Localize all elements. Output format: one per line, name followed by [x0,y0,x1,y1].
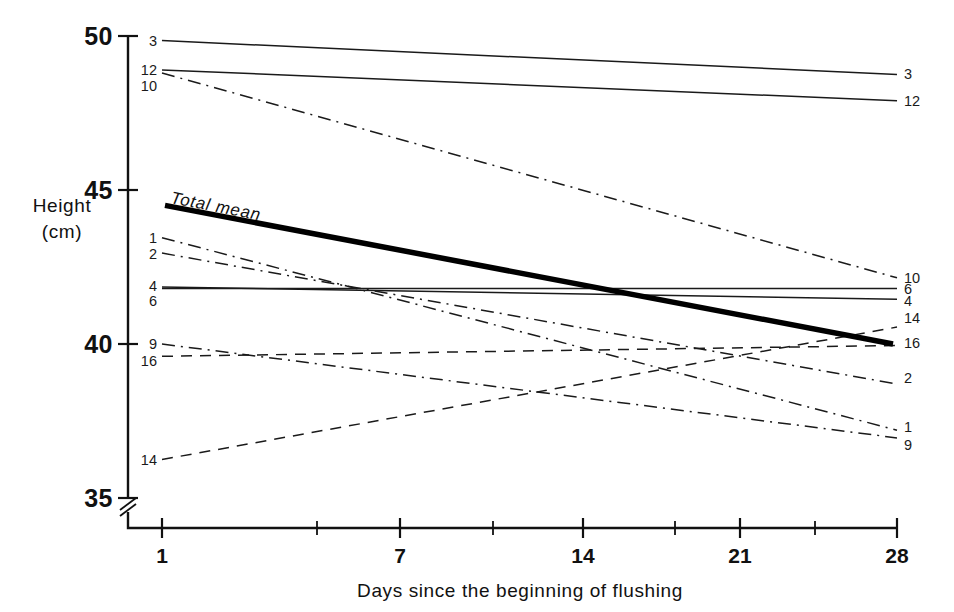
y-axis-lower-stub [128,512,152,528]
series-label-left-1: 1 [149,230,157,246]
series-label-right-9: 9 [904,437,912,453]
x-tick-label-1: 1 [156,544,168,567]
series-label-left-2: 2 [149,246,157,262]
x-tick-label-7: 7 [394,544,406,567]
y-tick-label-50: 50 [84,22,113,50]
x-axis-title: Days since the beginning of flushing [357,580,683,601]
series-label-left-4: 4 [149,278,157,294]
series-label-right-2: 2 [904,370,912,386]
series-labels-right: 3 12 10 6 4 14 16 2 1 9 [904,66,920,453]
chart-container: 50 45 40 35 1 7 14 21 28 Days since the … [0,0,954,612]
series-line-total-mean [165,205,893,344]
series-lines [162,41,897,460]
series-label-right-14: 14 [904,310,920,326]
series-line-14 [162,327,897,459]
series-label-right-1: 1 [904,419,912,435]
series-line-1 [162,238,897,431]
x-tick-labels: 1 7 14 21 28 [156,544,909,567]
axes-group [120,36,897,528]
series-label-left-12: 12 [141,62,157,78]
series-label-right-12: 12 [904,93,920,109]
y-tick-label-40: 40 [84,330,113,358]
series-label-left-10: 10 [141,78,157,94]
line-chart: 50 45 40 35 1 7 14 21 28 Days since the … [0,0,954,612]
x-tick-label-14: 14 [571,544,595,567]
series-labels-left: 3 12 10 1 2 4 6 9 16 14 [141,33,157,468]
y-axis-title-line1: Height [33,195,92,216]
series-label-left-16: 16 [141,353,157,369]
y-tick-labels: 50 45 40 35 [84,22,113,512]
series-label-left-6: 6 [149,293,157,309]
series-label-right-4: 4 [904,293,912,309]
y-axis-title-line2: (cm) [42,221,82,242]
series-line-3 [162,41,897,75]
x-tick-label-21: 21 [728,544,752,567]
y-tick-label-35: 35 [84,484,113,512]
series-line-9 [162,344,897,438]
series-label-right-16: 16 [904,335,920,351]
x-tick-label-28: 28 [885,544,909,567]
series-line-10 [162,73,897,278]
series-label-right-3: 3 [904,66,912,82]
total-mean-annotation: Total mean [169,188,262,224]
axis-break-icon [120,498,136,510]
series-label-left-9: 9 [149,336,157,352]
series-label-left-14: 14 [141,452,157,468]
series-label-left-3: 3 [149,33,157,49]
series-line-12 [162,70,897,101]
